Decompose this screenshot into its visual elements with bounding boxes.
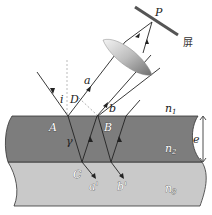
thin-film-diagram: P 屏 a b i D A B γ C a' b' n1 n2 n3 e [0, 0, 212, 215]
label-a-prime: a' [89, 180, 99, 193]
label-e: e [193, 133, 200, 146]
substrate-layer [8, 162, 206, 206]
label-A: A [48, 121, 57, 134]
focus-ray-b [143, 22, 152, 53]
label-B: B [103, 121, 112, 134]
wavefront-line [79, 98, 98, 116]
label-screen: 屏 [183, 37, 193, 48]
label-P: P [154, 6, 163, 19]
label-a: a [84, 74, 91, 87]
label-i: i [60, 93, 64, 106]
label-C: C [73, 168, 82, 181]
lens [103, 39, 152, 75]
label-b-prime: b' [117, 180, 127, 193]
label-n1: n1 [165, 102, 177, 116]
ray-up-2-out [126, 100, 140, 116]
focus-ray-a [125, 22, 152, 42]
label-D: D [69, 93, 79, 106]
label-b: b [109, 102, 116, 115]
label-gamma: γ [66, 135, 73, 148]
